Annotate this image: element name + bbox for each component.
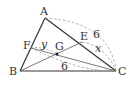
geometry-diagram: A B C E F G 6 x 6 y [0, 0, 130, 85]
measure-fc: 6 [61, 60, 68, 73]
measure-ac: 6 [93, 28, 100, 41]
measure-y: y [40, 38, 48, 51]
label-e: E [80, 30, 88, 43]
label-f: F [23, 39, 31, 52]
label-c: C [118, 65, 126, 78]
label-b: B [9, 65, 17, 78]
label-a: A [39, 5, 49, 18]
measure-x: x [95, 42, 102, 55]
label-g: G [55, 40, 64, 53]
